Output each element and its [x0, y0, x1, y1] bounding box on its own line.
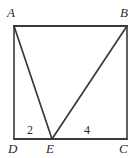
vertex-label-c: C	[119, 142, 128, 155]
vertex-label-e: E	[46, 142, 54, 155]
figure-canvas	[0, 0, 136, 158]
vertex-label-b: B	[120, 6, 128, 19]
segment-length-de: 2	[27, 124, 33, 136]
geometry-figure: A B C D E 2 4	[0, 0, 136, 158]
vertex-label-d: D	[8, 142, 17, 155]
edge-AE	[14, 26, 52, 139]
vertex-label-a: A	[7, 6, 15, 19]
segment-length-ec: 4	[84, 124, 90, 136]
